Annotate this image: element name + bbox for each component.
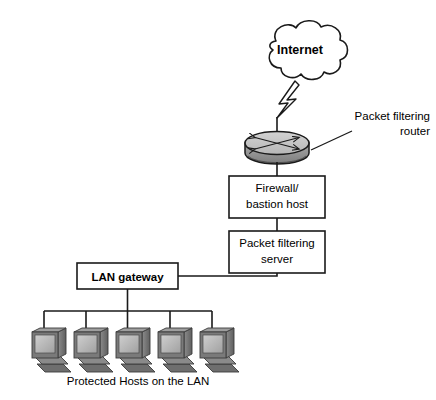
host-screen-4 (161, 335, 181, 353)
lightning-bolt-icon (277, 81, 299, 131)
host-computer-1 (32, 328, 71, 372)
host-screen-5 (203, 335, 223, 353)
firewall-bastion-host-box: Firewall/ bastion host (229, 176, 325, 218)
host-case-side-3 (142, 328, 150, 358)
server-box-line2: server (261, 253, 293, 265)
host-base-3 (121, 364, 155, 372)
lan-gateway-box: LAN gateway (77, 263, 178, 289)
host-case-side-5 (226, 328, 234, 358)
host-base-4 (163, 364, 197, 372)
host-base-5 (205, 364, 239, 372)
gateway-box-label: LAN gateway (91, 271, 164, 283)
packet-filtering-server-box: Packet filtering server (229, 231, 325, 273)
firewall-box-line1: Firewall/ (256, 182, 300, 194)
host-screen-2 (77, 335, 97, 353)
internet-cloud: Internet (269, 21, 347, 80)
host-computer-3 (116, 328, 155, 372)
protected-hosts-group (32, 328, 239, 372)
host-screen-1 (35, 335, 55, 353)
network-diagram: Internet Packet filtering router (0, 0, 436, 400)
host-computer-4 (158, 328, 197, 372)
router-callout-label: Packet filtering router (355, 110, 431, 137)
protected-hosts-caption: Protected Hosts on the LAN (67, 375, 210, 387)
firewall-box-line2: bastion host (246, 198, 309, 210)
server-box-line1: Packet filtering (239, 237, 314, 249)
host-base-1 (37, 364, 71, 372)
host-computer-5 (200, 328, 239, 372)
host-case-side-4 (184, 328, 192, 358)
host-case-side-2 (100, 328, 108, 358)
host-case-side-1 (58, 328, 66, 358)
host-computer-2 (74, 328, 113, 372)
router-callout-line2: router (400, 125, 430, 137)
router-callout-line1: Packet filtering (355, 110, 430, 122)
bolt-shape (277, 81, 299, 118)
host-screen-3 (119, 335, 139, 353)
packet-filtering-router (245, 132, 309, 165)
internet-cloud-label: Internet (277, 43, 324, 57)
host-base-2 (79, 364, 113, 372)
diagram-canvas: Internet Packet filtering router (0, 0, 436, 400)
router-callout-line (311, 131, 352, 150)
